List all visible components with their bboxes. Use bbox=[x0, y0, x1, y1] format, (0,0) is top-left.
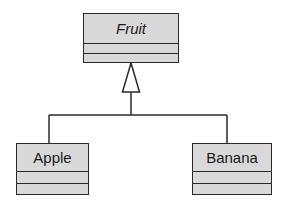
class-box-fruit[interactable]: Fruit bbox=[83, 13, 179, 63]
attributes-compartment bbox=[193, 171, 271, 183]
operations-compartment bbox=[17, 183, 88, 194]
attributes-compartment bbox=[17, 171, 88, 183]
class-box-apple[interactable]: Apple bbox=[16, 143, 89, 195]
generalization-arrowhead-icon bbox=[123, 63, 140, 92]
class-box-banana[interactable]: Banana bbox=[192, 143, 272, 195]
operations-compartment bbox=[84, 53, 178, 62]
class-name: Fruit bbox=[84, 14, 178, 43]
operations-compartment bbox=[193, 183, 271, 194]
class-name: Apple bbox=[17, 144, 88, 171]
class-name: Banana bbox=[193, 144, 271, 171]
attributes-compartment bbox=[84, 43, 178, 53]
